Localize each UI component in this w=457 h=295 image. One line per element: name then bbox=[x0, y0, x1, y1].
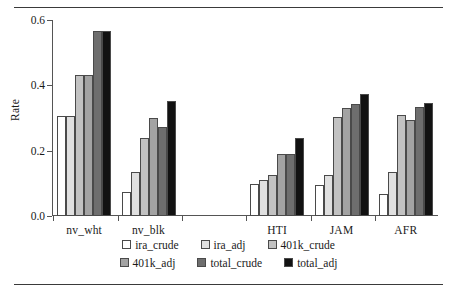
x-tick-label: nv_wht bbox=[66, 224, 102, 236]
legend-swatch-icon bbox=[268, 240, 277, 249]
bottom-divider-rule bbox=[14, 284, 443, 285]
legend-swatch-icon bbox=[284, 258, 293, 267]
y-tick bbox=[47, 216, 52, 217]
bar-401k_crude-nv_blk bbox=[140, 138, 149, 216]
bar-ira_adj-HTI bbox=[259, 180, 268, 216]
legend-label: ira_adj bbox=[214, 239, 246, 251]
legend-item-ira_crude: ira_crude bbox=[122, 237, 178, 253]
bar-total_crude-HTI bbox=[286, 154, 295, 216]
bar-ira_crude-HTI bbox=[250, 184, 259, 216]
bar-401k_crude-nv_wht bbox=[75, 75, 84, 216]
y-tick bbox=[47, 151, 52, 152]
legend-label: 401k_crude bbox=[281, 239, 335, 251]
y-tick bbox=[47, 20, 52, 21]
bar-ira_adj-JAM bbox=[324, 175, 333, 216]
legend-label: total_adj bbox=[297, 257, 337, 269]
bar-total_adj-HTI bbox=[295, 138, 304, 216]
legend-item-total_crude: total_crude bbox=[197, 255, 262, 271]
bar-ira_crude-JAM bbox=[315, 185, 324, 216]
y-tick-label: 0.2 bbox=[31, 145, 45, 157]
bar-ira_crude-AFR bbox=[379, 194, 388, 216]
bar-401k_crude-JAM bbox=[333, 117, 342, 216]
bar-total_crude-nv_wht bbox=[93, 31, 102, 216]
bar-total_crude-JAM bbox=[351, 104, 360, 216]
legend-swatch-icon bbox=[122, 240, 131, 249]
x-tick bbox=[182, 216, 183, 221]
bar-401k_crude-AFR bbox=[397, 115, 406, 216]
bar-total_crude-nv_blk bbox=[158, 127, 167, 216]
legend-item-total_adj: total_adj bbox=[284, 255, 337, 271]
y-tick-label: 0.0 bbox=[31, 210, 45, 222]
bar-401k_crude-HTI bbox=[268, 175, 277, 216]
legend-label: total_crude bbox=[210, 257, 262, 269]
y-axis-label: Rate bbox=[9, 75, 21, 145]
bar-401k_adj-HTI bbox=[277, 154, 286, 216]
x-tick bbox=[246, 216, 247, 221]
legend-row: ira_crudeira_adj401k_crude bbox=[0, 236, 457, 253]
x-tick bbox=[118, 216, 119, 221]
bar-ira_adj-nv_blk bbox=[131, 172, 140, 216]
bar-total_adj-JAM bbox=[360, 94, 369, 217]
legend-item-401k_crude: 401k_crude bbox=[268, 237, 335, 253]
legend-item-ira_adj: ira_adj bbox=[201, 237, 246, 253]
bar-ira_adj-nv_wht bbox=[66, 116, 75, 216]
x-tick-label: nv_blk bbox=[132, 224, 165, 236]
y-tick-label: 0.4 bbox=[31, 79, 45, 91]
bar-ira_crude-nv_blk bbox=[122, 192, 131, 216]
top-divider-rule bbox=[14, 7, 443, 8]
legend-swatch-icon bbox=[197, 258, 206, 267]
legend-swatch-icon bbox=[201, 240, 210, 249]
bar-total_adj-AFR bbox=[424, 103, 433, 216]
bar-401k_adj-nv_wht bbox=[84, 75, 93, 216]
bar-total_crude-AFR bbox=[415, 107, 424, 216]
bar-401k_adj-nv_blk bbox=[149, 118, 158, 216]
y-tick bbox=[47, 85, 52, 86]
legend-row: 401k_adjtotal_crudetotal_adj bbox=[0, 253, 457, 270]
x-tick bbox=[375, 216, 376, 221]
bar-ira_crude-nv_wht bbox=[57, 116, 66, 216]
bar-total_adj-nv_blk bbox=[167, 101, 176, 216]
legend-label: 401k_adj bbox=[133, 257, 176, 269]
x-tick bbox=[53, 216, 54, 221]
x-tick bbox=[311, 216, 312, 221]
bar-401k_adj-JAM bbox=[342, 108, 351, 216]
legend-swatch-icon bbox=[120, 258, 129, 267]
x-tick-label: JAM bbox=[330, 224, 354, 236]
x-tick-label: AFR bbox=[394, 224, 417, 236]
bar-401k_adj-AFR bbox=[406, 120, 415, 216]
bar-ira_adj-AFR bbox=[388, 172, 397, 216]
legend-label: ira_crude bbox=[135, 239, 178, 251]
bar-total_adj-nv_wht bbox=[102, 31, 111, 216]
y-axis-line bbox=[52, 20, 53, 216]
y-tick-label: 0.6 bbox=[31, 14, 45, 26]
plot-area: 0.00.20.40.6 nv_whtnv_blkHTIJAMAFR bbox=[52, 20, 438, 216]
x-tick-label: HTI bbox=[267, 224, 287, 236]
chart-legend: ira_crudeira_adj401k_crude401k_adjtotal_… bbox=[0, 236, 457, 271]
legend-item-401k_adj: 401k_adj bbox=[120, 255, 176, 271]
bar-chart-figure: Rate 0.00.20.40.6 nv_whtnv_blkHTIJAMAFR … bbox=[0, 12, 457, 280]
